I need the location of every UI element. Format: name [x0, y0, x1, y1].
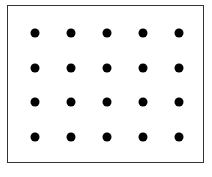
grid-dot — [175, 29, 184, 38]
grid-dot — [139, 98, 148, 107]
grid-dot — [139, 64, 148, 73]
grid-dot — [103, 133, 112, 142]
grid-dot — [103, 29, 112, 38]
grid-dot — [67, 64, 76, 73]
grid-dot — [31, 98, 40, 107]
grid-dot — [103, 64, 112, 73]
grid-dot — [31, 29, 40, 38]
grid-dot — [31, 133, 40, 142]
grid-dot — [67, 98, 76, 107]
grid-dot — [175, 98, 184, 107]
grid-dot — [175, 133, 184, 142]
grid-dot — [67, 29, 76, 38]
grid-dot — [31, 64, 40, 73]
grid-dot — [103, 98, 112, 107]
grid-dot — [139, 133, 148, 142]
grid-dot — [67, 133, 76, 142]
grid-dot — [139, 29, 148, 38]
grid-dot — [175, 64, 184, 73]
